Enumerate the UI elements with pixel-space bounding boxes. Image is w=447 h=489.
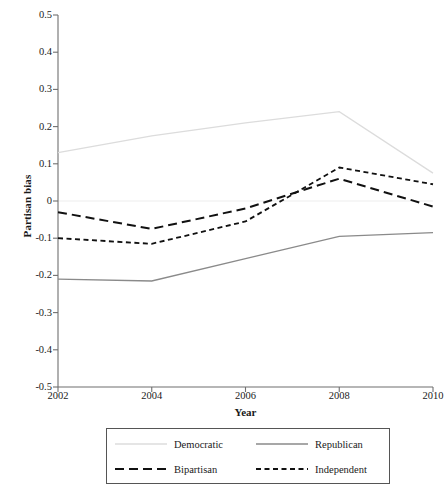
- chart-legend: Democratic Republican Bipartisan Indepen…: [106, 428, 390, 484]
- partisan-bias-line-chart: Partisan bias 0.50.40.30.20.10-0.1-0.2-0…: [0, 0, 447, 489]
- legend-item-bipartisan: Bipartisan: [107, 457, 248, 481]
- series-line-democratic: [58, 112, 433, 173]
- legend-label-republican: Republican: [315, 439, 363, 450]
- legend-label-independent: Independent: [315, 464, 367, 475]
- legend-swatch-democratic: [115, 438, 167, 450]
- legend-swatch-republican: [256, 438, 308, 450]
- legend-swatch-independent: [256, 463, 308, 475]
- legend-item-republican: Republican: [248, 432, 389, 456]
- series-line-independent: [58, 168, 433, 244]
- legend-swatch-bipartisan: [115, 463, 167, 475]
- legend-label-bipartisan: Bipartisan: [174, 464, 217, 475]
- legend-item-independent: Independent: [248, 457, 389, 481]
- series-line-republican: [58, 233, 433, 281]
- legend-label-democratic: Democratic: [174, 439, 223, 450]
- plot-area: [0, 0, 447, 489]
- legend-item-democratic: Democratic: [107, 432, 248, 456]
